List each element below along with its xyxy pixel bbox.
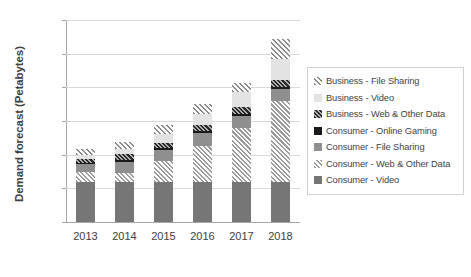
business-file-sharing-swatch [314,77,322,85]
x-axis-labels: 201320142015201620172018 [66,226,300,246]
consumer-web-swatch [314,160,322,168]
bar-segment-business-file-sharing-2017[interactable] [232,83,251,92]
bar-segment-consumer-video-2016[interactable] [193,182,212,222]
bar-segment-consumer-file-sharing-2016[interactable] [193,133,212,146]
bar-segment-business-file-sharing-2014[interactable] [115,142,134,149]
legend-item-business-web-other-data[interactable]: Business - Web & Other Data [312,106,459,123]
bar-segment-business-web-other-data-2018[interactable] [271,80,290,87]
bar-segment-consumer-web-other-data-2016[interactable] [193,146,212,182]
legend-item-label: Consumer - File Sharing [326,142,424,152]
x-tick-label-2018: 2018 [261,230,301,242]
x-tick-label-2017: 2017 [222,230,262,242]
bar-segment-consumer-video-2017[interactable] [232,182,251,222]
legend-item-label: Business - Video [326,93,394,103]
bar-segment-business-file-sharing-2015[interactable] [154,125,173,133]
gridline-0 [66,222,300,223]
legend-item-consumer-web-other-data[interactable]: Consumer - Web & Other Data [312,156,459,173]
bar-segment-consumer-file-sharing-2014[interactable] [115,162,134,172]
legend-item-business-file-sharing[interactable]: Business - File Sharing [312,73,459,90]
legend-item-label: Business - Web & Other Data [326,109,445,119]
x-tick-label-2013: 2013 [66,230,106,242]
legend-item-consumer-video[interactable]: Consumer - Video [312,172,459,189]
chart-legend: Business - File SharingBusiness - VideoB… [307,67,464,195]
consumer-file-sharing-swatch [314,143,322,151]
y-axis-title: Demand forecast (Petabytes) [13,19,25,229]
bar-segment-consumer-web-other-data-2015[interactable] [154,161,173,182]
bar-segment-consumer-file-sharing-2015[interactable] [154,150,173,161]
bar-2013[interactable] [76,149,95,222]
legend-item-consumer-file-sharing[interactable]: Consumer - File Sharing [312,139,459,156]
legend-item-label: Consumer - Online Gaming [326,126,437,136]
bar-2016[interactable] [193,104,212,222]
bar-segment-business-video-2018[interactable] [271,59,290,80]
bar-segment-business-file-sharing-2016[interactable] [193,104,212,114]
y-tickmark-0 [62,222,66,223]
legend-item-business-video[interactable]: Business - Video [312,90,459,107]
bar-segment-consumer-web-other-data-2014[interactable] [115,173,134,182]
consumer-gaming-swatch [314,127,322,135]
bar-segment-consumer-file-sharing-2013[interactable] [76,164,95,172]
bar-segment-consumer-web-other-data-2018[interactable] [271,101,290,182]
consumer-video-swatch [314,176,322,184]
bar-segment-consumer-file-sharing-2017[interactable] [232,116,251,128]
bar-segment-business-file-sharing-2018[interactable] [271,39,290,60]
plot-area: 01,0002,0003,0004,0005,0006,000 [66,20,300,222]
bars-layer [66,20,300,222]
legend-item-label: Consumer - Video [326,175,399,185]
bar-segment-consumer-web-other-data-2013[interactable] [76,172,95,181]
bar-segment-consumer-video-2014[interactable] [115,182,134,222]
x-tick-label-2016: 2016 [183,230,223,242]
bar-2018[interactable] [271,39,290,222]
bar-segment-consumer-file-sharing-2018[interactable] [271,89,290,101]
legend-item-label: Consumer - Web & Other Data [326,159,450,169]
business-web-swatch [314,110,322,118]
bar-segment-business-video-2016[interactable] [193,114,212,125]
bar-segment-consumer-video-2015[interactable] [154,182,173,222]
x-tick-label-2015: 2015 [144,230,184,242]
business-video-swatch [314,94,322,102]
bar-chart: Demand forecast (Petabytes) 01,0002,0003… [0,0,471,277]
legend-item-consumer-online-gaming[interactable]: Consumer - Online Gaming [312,123,459,140]
bar-segment-consumer-video-2013[interactable] [76,182,95,222]
bar-segment-business-video-2017[interactable] [232,92,251,107]
bar-segment-consumer-web-other-data-2017[interactable] [232,128,251,182]
bar-2014[interactable] [115,142,134,222]
bar-segment-consumer-video-2018[interactable] [271,182,290,222]
legend-item-label: Business - File Sharing [326,76,419,86]
bar-2015[interactable] [154,125,173,222]
bar-segment-business-video-2015[interactable] [154,134,173,143]
bar-2017[interactable] [232,83,251,222]
x-tick-label-2014: 2014 [105,230,145,242]
